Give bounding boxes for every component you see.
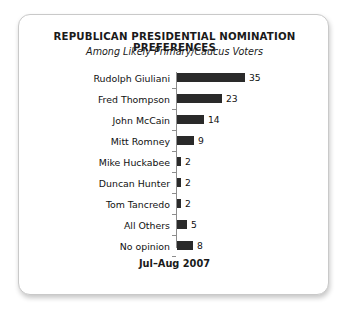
bar-chart-plot: Rudolph Giuliani35Fred Thompson23John Mc… [19, 70, 330, 250]
category-label: Rudolph Giuliani [93, 73, 170, 84]
category-label: Mike Huckabee [99, 157, 170, 168]
category-label: All Others [124, 220, 170, 231]
bar-row: Mike Huckabee2 [19, 154, 330, 175]
axis-tick [172, 214, 176, 215]
bar-value-label: 35 [249, 72, 261, 83]
bar-value-label: 8 [197, 240, 203, 251]
bar-value-label: 14 [208, 114, 220, 125]
category-label: Duncan Hunter [99, 178, 170, 189]
axis-tick [172, 151, 176, 152]
axis-tick [172, 256, 176, 257]
bar [177, 136, 194, 145]
axis-tick [172, 88, 176, 89]
chart-footer-date: Jul–Aug 2007 [19, 258, 330, 269]
axis-tick [172, 193, 176, 194]
bar-row: Tom Tancredo2 [19, 196, 330, 217]
category-label: Mitt Romney [111, 136, 170, 147]
bar-row: Fred Thompson23 [19, 91, 330, 112]
bar [177, 220, 187, 229]
bar-row: John McCain14 [19, 112, 330, 133]
category-label: Tom Tancredo [106, 199, 170, 210]
chart-subtitle: Among Likely Primary/Caucus Voters [19, 46, 330, 57]
bar-row: Duncan Hunter2 [19, 175, 330, 196]
axis-tick [172, 130, 176, 131]
bar-row: No opinion8 [19, 238, 330, 259]
bar-value-label: 5 [191, 219, 197, 230]
bar [177, 241, 193, 250]
bar [177, 115, 204, 124]
bar-row: All Others5 [19, 217, 330, 238]
bar-row: Rudolph Giuliani35 [19, 70, 330, 91]
bar-value-label: 2 [185, 156, 191, 167]
axis-tick [172, 172, 176, 173]
bar-value-label: 9 [198, 135, 204, 146]
bar-value-label: 23 [226, 93, 238, 104]
bar [177, 199, 181, 208]
bar [177, 157, 181, 166]
bar-value-label: 2 [185, 198, 191, 209]
bar [177, 94, 222, 103]
bar-row: Mitt Romney9 [19, 133, 330, 154]
category-label: No opinion [120, 241, 170, 252]
bar [177, 178, 181, 187]
category-label: Fred Thompson [98, 94, 170, 105]
bar [177, 73, 245, 82]
chart-card: REPUBLICAN PRESIDENTIAL NOMINATION PREFE… [18, 14, 329, 295]
axis-tick [172, 235, 176, 236]
axis-tick [172, 109, 176, 110]
bar-value-label: 2 [185, 177, 191, 188]
category-label: John McCain [113, 115, 170, 126]
